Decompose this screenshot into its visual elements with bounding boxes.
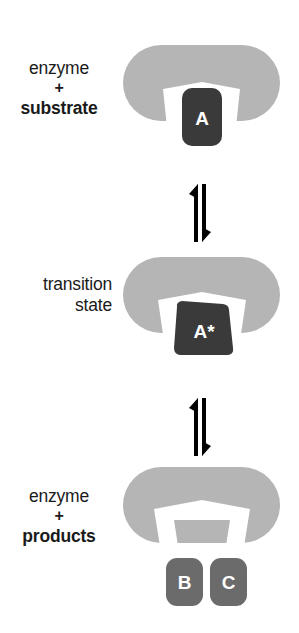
stage-enzyme-products: enzyme + products B C bbox=[0, 462, 299, 622]
equilibrium-arrow-icon-2 bbox=[178, 396, 222, 458]
transition-state-art: A* bbox=[118, 252, 299, 392]
label-line-enzyme: enzyme bbox=[0, 58, 118, 79]
enzyme-products-art: B C bbox=[118, 462, 299, 622]
label-line-products: products bbox=[0, 526, 118, 547]
enzyme-substrate-art: A bbox=[118, 40, 299, 175]
label-line-plus: + bbox=[0, 79, 118, 98]
product-molecule-c-label: C bbox=[222, 572, 236, 593]
label-transition-state: transition state bbox=[0, 274, 112, 315]
label-line-enzyme: enzyme bbox=[0, 486, 118, 507]
arrow-up-head bbox=[189, 398, 198, 413]
label-enzyme-substrate: enzyme + substrate bbox=[0, 58, 118, 118]
label-line-state: state bbox=[0, 295, 112, 316]
stage-transition-state: transition state A* bbox=[0, 252, 299, 392]
stage-enzyme-substrate: enzyme + substrate A bbox=[0, 40, 299, 175]
product-molecule-b-label: B bbox=[178, 572, 192, 593]
equilibrium-arrow-icon-1 bbox=[178, 182, 222, 244]
arrow-up-head bbox=[189, 184, 198, 199]
label-line-plus: + bbox=[0, 507, 118, 526]
enzyme-catalysis-diagram: enzyme + substrate A transition state bbox=[0, 0, 299, 633]
transition-state-molecule-label: A* bbox=[193, 321, 215, 342]
arrow-down-head bbox=[202, 227, 211, 242]
label-line-transition: transition bbox=[0, 274, 112, 295]
label-enzyme-products: enzyme + products bbox=[0, 486, 118, 546]
label-line-substrate: substrate bbox=[0, 98, 118, 119]
substrate-molecule-a-label: A bbox=[195, 108, 209, 129]
arrow-down-head bbox=[202, 441, 211, 456]
